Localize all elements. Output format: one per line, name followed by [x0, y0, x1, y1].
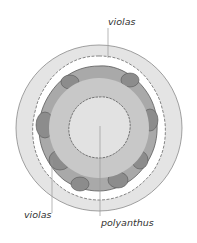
label-violas-top: violas — [108, 17, 135, 27]
planting-diagram — [0, 0, 197, 243]
label-violas-left: violas — [24, 210, 51, 220]
label-polyanthus: polyanthus — [101, 218, 154, 228]
